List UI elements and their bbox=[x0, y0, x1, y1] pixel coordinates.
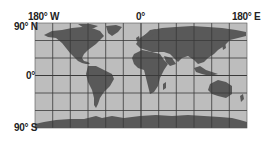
longitude-label-0: 0° bbox=[136, 12, 145, 22]
latitude-label-90s: 90° S bbox=[14, 123, 37, 133]
latitude-label-90n: 90° N bbox=[14, 22, 38, 32]
latitude-label-equator: 0° bbox=[26, 71, 35, 81]
longitude-label-180e: 180° E bbox=[232, 12, 260, 22]
